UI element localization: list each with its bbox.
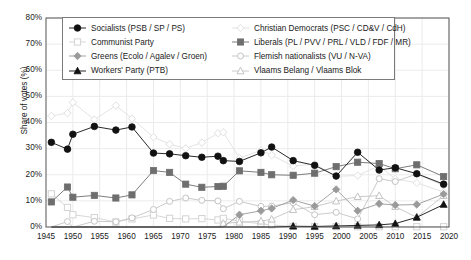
legend-item-label: Liberals (PL / PVV / PRL / VLD / FDF / M… — [254, 38, 411, 47]
x-tick-label: 1980 — [225, 233, 243, 241]
x-tick-label: 1955 — [91, 233, 109, 241]
legend-column-left: Socialists (PSB / SP / PS)Communist Part… — [68, 21, 233, 78]
legend-marker-square-open-icon — [68, 36, 87, 48]
chart-legend: Socialists (PSB / SP / PS)Communist Part… — [62, 17, 395, 80]
legend-item[interactable]: Socialists (PSB / SP / PS) — [68, 21, 233, 35]
legend-marker-triangle-filled-icon — [68, 65, 87, 77]
legend-item[interactable]: Flemish nationalists (VU / N-VA) — [231, 49, 399, 63]
x-tick-label: 1965 — [144, 233, 162, 241]
x-tick-label: 1990 — [279, 233, 297, 241]
legend-marker-circle-filled-icon — [68, 22, 87, 34]
legend-item[interactable]: Communist Party — [68, 35, 233, 49]
legend-item[interactable]: Workers' Party (PTB) — [68, 64, 233, 78]
x-tick-label: 2015 — [413, 233, 431, 241]
legend-marker-square-filled-icon — [231, 36, 250, 48]
x-tick-label: 1975 — [198, 233, 216, 241]
x-tick-label: 1960 — [117, 233, 135, 241]
x-tick-label: 2010 — [386, 233, 404, 241]
legend-marker-triangle-open-icon — [231, 65, 250, 77]
x-tick-label: 1995 — [306, 233, 324, 241]
legend-item[interactable]: Vlaams Belang / Vlaams Blok — [231, 64, 399, 78]
x-tick-label: 1945 — [37, 233, 55, 241]
legend-item-label: Communist Party — [91, 38, 154, 47]
x-tick-label: 1985 — [252, 233, 270, 241]
legend-marker-diamond-grey-icon — [68, 50, 87, 62]
legend-item-label: Flemish nationalists (VU / N-VA) — [254, 52, 371, 61]
legend-marker-circle-open-icon — [231, 50, 250, 62]
legend-item-label: Greens (Ecolo / Agalev / Groen) — [91, 52, 207, 61]
x-tick-label: 2005 — [359, 233, 377, 241]
legend-marker-diamond-open-icon — [231, 22, 250, 34]
legend-item-label: Christian Democrats (PSC / CD&V / CdH) — [254, 24, 406, 33]
legend-item-label: Socialists (PSB / SP / PS) — [91, 24, 185, 33]
legend-item[interactable]: Liberals (PL / PVV / PRL / VLD / FDF / M… — [231, 35, 399, 49]
chart-container: Share of votes (%) 0%10%20%30%40%50%60%7… — [0, 0, 471, 260]
legend-item-label: Workers' Party (PTB) — [91, 66, 168, 75]
x-tick-label: 1970 — [171, 233, 189, 241]
legend-item-label: Vlaams Belang / Vlaams Blok — [254, 66, 361, 75]
legend-item[interactable]: Greens (Ecolo / Agalev / Groen) — [68, 49, 233, 63]
x-tick-label: 1950 — [64, 233, 82, 241]
x-tick-label: 2020 — [440, 233, 458, 241]
x-tick-label: 2000 — [332, 233, 350, 241]
legend-column-right: Christian Democrats (PSC / CD&V / CdH)Li… — [231, 21, 399, 78]
legend-item[interactable]: Christian Democrats (PSC / CD&V / CdH) — [231, 21, 399, 35]
